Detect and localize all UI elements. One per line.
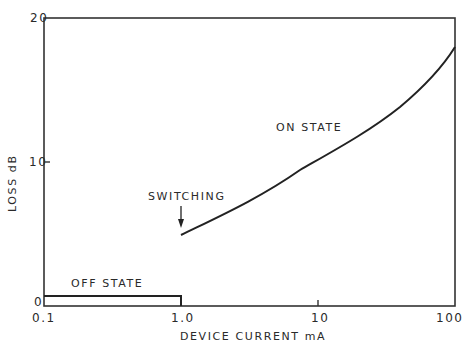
x-tick-label-100: 100: [436, 311, 463, 325]
x-tick-label-10: 10: [311, 311, 329, 325]
switching-arrowhead-icon: [178, 219, 184, 228]
y-tick-label-0: 0: [34, 295, 43, 309]
off-state-line: [44, 296, 181, 306]
on-state-label: ON STATE: [276, 121, 342, 134]
y-tick-label-20: 20: [30, 11, 48, 25]
x-tick-label-0.1: 0.1: [32, 311, 56, 325]
loss-vs-current-chart: 20 10 0 0.1 1.0 10 100 DEVICE CURRENT mA…: [0, 0, 472, 349]
x-axis-label: DEVICE CURRENT mA: [180, 330, 326, 343]
on-state-curve: [181, 47, 455, 235]
y-tick-label-10: 10: [29, 155, 47, 169]
off-state-label: OFF STATE: [71, 277, 143, 290]
y-axis-label: LOSS dB: [6, 154, 19, 212]
plot-frame: [44, 18, 455, 306]
x-tick-label-1.0: 1.0: [171, 311, 195, 325]
switching-label: SWITCHING: [148, 190, 226, 203]
